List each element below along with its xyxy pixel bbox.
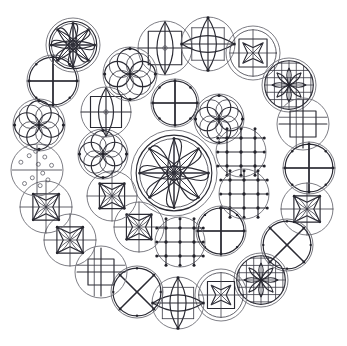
figure-canvas — [0, 0, 347, 346]
glyph-center-rosette — [131, 130, 217, 216]
glyph-mid-lens-n — [138, 21, 192, 75]
glyph-inner-grid-e-lower — [219, 169, 269, 219]
glyph-inner-pinwheel-n — [151, 79, 199, 127]
glyph-outer-star-w — [20, 181, 72, 233]
glyph-outer-dots-w — [11, 144, 63, 196]
glyph-inner-grid-s — [155, 217, 205, 267]
glyph-inner-star-w-lower — [87, 171, 137, 221]
glyph-mid-hatched-ene — [262, 58, 316, 112]
glyph-mid-pinwheel-e — [283, 142, 335, 194]
glyph-outer-star-wsw — [44, 214, 96, 266]
glyph-inner-pinwheel-se — [196, 206, 246, 256]
glyph-mid-star-ese — [281, 183, 333, 235]
glyph-inner-star-sw — [114, 202, 164, 252]
glyph-outer-rosette-nnw — [46, 18, 100, 72]
glyph-mid-starsq-ne — [226, 26, 280, 80]
glyph-mid-squarecircle-e — [277, 98, 329, 150]
glyph-arrangement-svg — [0, 0, 347, 346]
